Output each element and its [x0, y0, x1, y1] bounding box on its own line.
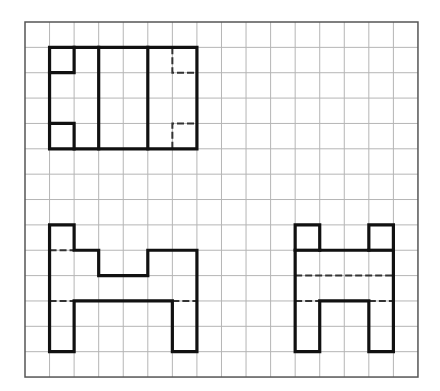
visible-edge-solid-line	[50, 47, 75, 72]
hidden-edge-dashed-line	[172, 123, 197, 148]
hidden-edge-dashed-line	[172, 47, 197, 72]
technical-drawing-canvas	[0, 0, 440, 391]
visible-edge-solid-line	[50, 123, 75, 148]
graph-paper-grid	[25, 22, 418, 377]
